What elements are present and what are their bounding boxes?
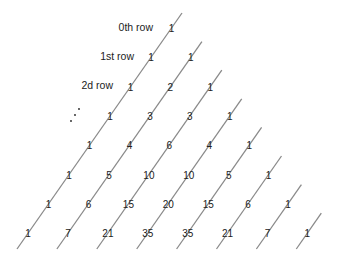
row-label-1: 1st row (100, 50, 134, 62)
triangle-number: 21 (102, 228, 114, 239)
ellipsis-dot (70, 120, 72, 122)
triangle-number: 1 (188, 52, 194, 63)
triangle-number: 1 (128, 82, 134, 93)
triangle-number: 15 (123, 199, 135, 210)
triangle-number: 1 (285, 199, 291, 210)
triangle-number: 15 (203, 199, 215, 210)
triangle-numbers: 1111211331146411510105116152015611721353… (25, 23, 310, 239)
pascal-triangle-diagram: 0th row 1st row 2d row 11112113311464115… (0, 0, 339, 264)
triangle-number: 1 (266, 170, 272, 181)
row-labels: 0th row 1st row 2d row (81, 21, 153, 91)
triangle-number: 1 (208, 82, 214, 93)
triangle-number: 3 (147, 111, 153, 122)
triangle-number: 7 (65, 228, 71, 239)
triangle-number: 1 (246, 140, 252, 151)
triangle-number: 7 (265, 228, 271, 239)
triangle-number: 4 (207, 140, 213, 151)
ellipsis-dot (74, 114, 76, 116)
triangle-number: 2 (168, 82, 174, 93)
triangle-number: 21 (222, 228, 234, 239)
triangle-number: 6 (245, 199, 251, 210)
diagonal-line (256, 185, 301, 249)
triangle-number: 1 (25, 228, 31, 239)
row-label-2: 2d row (81, 79, 113, 91)
triangle-number: 5 (226, 170, 232, 181)
triangle-number: 1 (169, 23, 175, 34)
triangle-number: 1 (148, 52, 154, 63)
triangle-number: 6 (167, 140, 173, 151)
triangle-number: 1 (107, 111, 113, 122)
triangle-number: 10 (183, 170, 195, 181)
diagonal-lines (17, 13, 321, 249)
ellipsis-dot (78, 108, 80, 110)
triangle-number: 1 (87, 140, 93, 151)
ellipsis-dots (70, 108, 80, 122)
diagonal-line (97, 70, 222, 249)
triangle-number: 5 (106, 170, 112, 181)
diagonal-line (17, 13, 182, 249)
triangle-number: 1 (227, 111, 233, 122)
triangle-number: 1 (46, 199, 52, 210)
triangle-number: 4 (127, 140, 133, 151)
row-label-0: 0th row (119, 21, 154, 33)
triangle-number: 35 (182, 228, 194, 239)
triangle-number: 10 (143, 170, 155, 181)
triangle-number: 35 (142, 228, 154, 239)
triangle-number: 6 (86, 199, 92, 210)
triangle-number: 3 (187, 111, 193, 122)
triangle-number: 1 (66, 170, 72, 181)
triangle-number: 20 (163, 199, 175, 210)
triangle-number: 1 (305, 228, 311, 239)
